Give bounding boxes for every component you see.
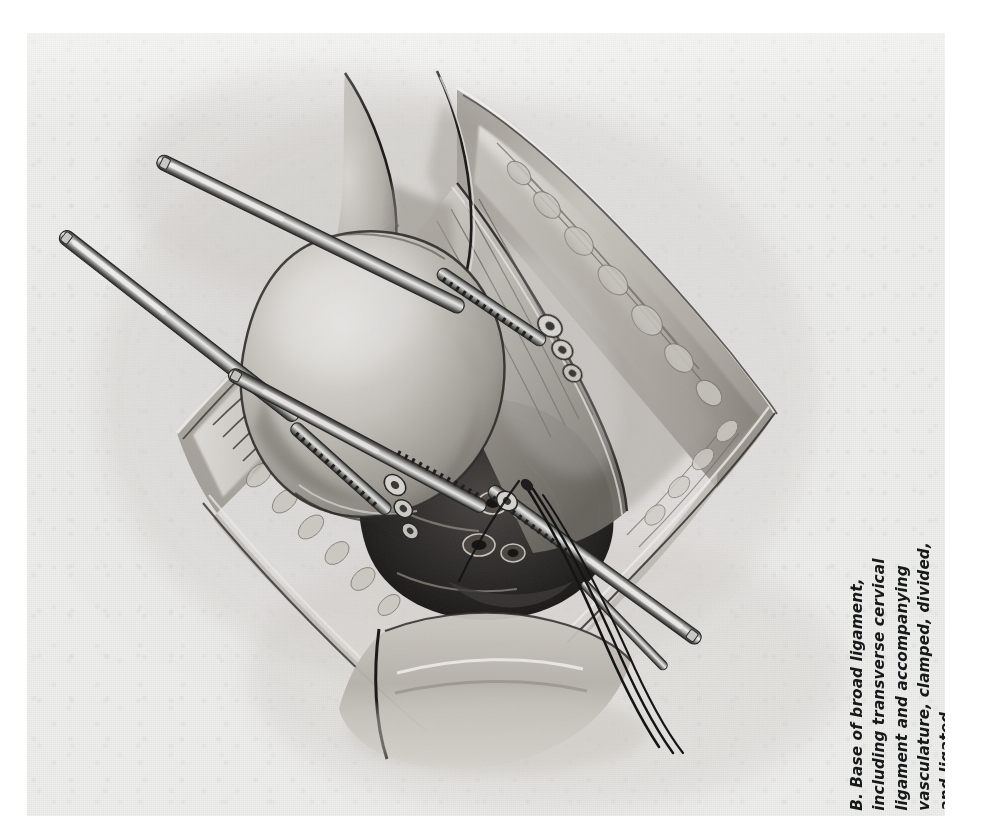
- illustration-page: B. Base of broad ligament, including tra…: [0, 0, 985, 837]
- surgical-illustration-artwork: [27, 33, 945, 816]
- illustration-plate: B. Base of broad ligament, including tra…: [27, 33, 945, 816]
- caption-block: B. Base of broad ligament, including tra…: [832, 433, 945, 816]
- plate-caption: B. Base of broad ligament, including tra…: [846, 419, 945, 811]
- artwork-grain: [27, 33, 945, 816]
